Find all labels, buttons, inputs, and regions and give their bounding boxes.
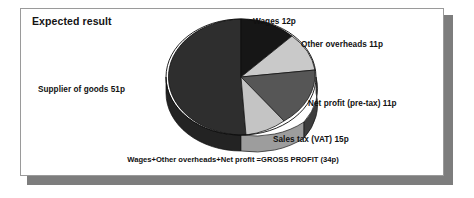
slice-label-net-profit: Net profit (pre-tax) 11p	[308, 99, 397, 108]
slice-label-wages: Wages 12p	[253, 17, 296, 26]
expected-result-card: Expected result	[20, 8, 444, 176]
pie-chart: Wages 12p Other overheads 11p Net profit…	[21, 9, 445, 177]
screenshot-root: Expected result	[0, 0, 474, 198]
pie-slices	[168, 19, 315, 135]
slice-label-other-overheads: Other overheads 11p	[301, 40, 383, 49]
slice-label-supplier-of-goods: Supplier of goods 51p	[38, 85, 125, 94]
chart-annotation-gross-profit: Wages+Other overheads+Net profit =GROSS …	[21, 155, 445, 164]
slice-label-sales-tax: Sales tax (VAT) 15p	[273, 135, 349, 144]
